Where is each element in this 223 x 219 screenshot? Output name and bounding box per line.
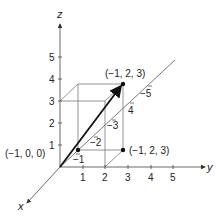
neg-x-tick-label: −5 bbox=[140, 88, 152, 99]
neg-x-tick-label: −2 bbox=[90, 137, 102, 148]
y-tick-label: 2 bbox=[102, 172, 108, 183]
point-neg1-2-3-top bbox=[121, 82, 125, 86]
point-label-neg1-2-3-bottom: (−1, 2, 3) bbox=[129, 145, 169, 156]
z-tick-label: 3 bbox=[49, 96, 55, 107]
y-tick-label: 3 bbox=[125, 172, 131, 183]
z-tick-label: 2 bbox=[49, 118, 55, 129]
point-label-neg1-2-3-top: (−1, 2, 3) bbox=[105, 68, 145, 79]
neg-x-tick-label: −1 bbox=[73, 154, 85, 165]
x-axis-label: x bbox=[17, 200, 24, 212]
z-tick-label: 5 bbox=[49, 52, 55, 63]
z-tick-label: 1 bbox=[49, 140, 55, 151]
z-axis-label: z bbox=[56, 8, 63, 20]
z-tick-label: 4 bbox=[49, 74, 55, 85]
x-axis bbox=[27, 167, 60, 203]
y-axis-label: y bbox=[206, 161, 214, 173]
neg-x-tick-label: 4 bbox=[128, 105, 134, 116]
y-tick-label: 1 bbox=[80, 172, 86, 183]
vector-diagram: z y x 1 2 3 4 5 1 2 3 4 5 −1 −2 −3 4 −5 … bbox=[0, 0, 223, 219]
point-neg1-2-0 bbox=[121, 148, 125, 152]
point-neg1-0-0 bbox=[76, 148, 80, 152]
neg-x-tick-label: −3 bbox=[107, 120, 119, 131]
point-label-neg1-0-0: (−1, 0, 0) bbox=[5, 148, 45, 159]
y-tick-label: 4 bbox=[148, 172, 154, 183]
y-tick-label: 5 bbox=[170, 172, 176, 183]
